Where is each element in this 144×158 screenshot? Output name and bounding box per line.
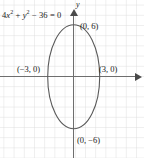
point-label-left: (−3, 0) <box>17 65 40 74</box>
y-axis-label: y <box>76 1 80 9</box>
equation-label: 4x2 + y2 − 36 = 0 <box>2 11 61 20</box>
ellipse-curve <box>0 0 144 158</box>
equation-plus: + <box>13 10 22 20</box>
point-label-bottom: (0, −6) <box>77 136 100 145</box>
graph-figure: 4x2 + y2 − 36 = 0 y (0, 6) (0, −6) (−3, … <box>0 0 144 158</box>
equation-tail: − 36 = 0 <box>30 10 62 20</box>
point-label-right: (3, 0) <box>99 65 117 74</box>
point-label-top: (0, 6) <box>80 22 98 31</box>
